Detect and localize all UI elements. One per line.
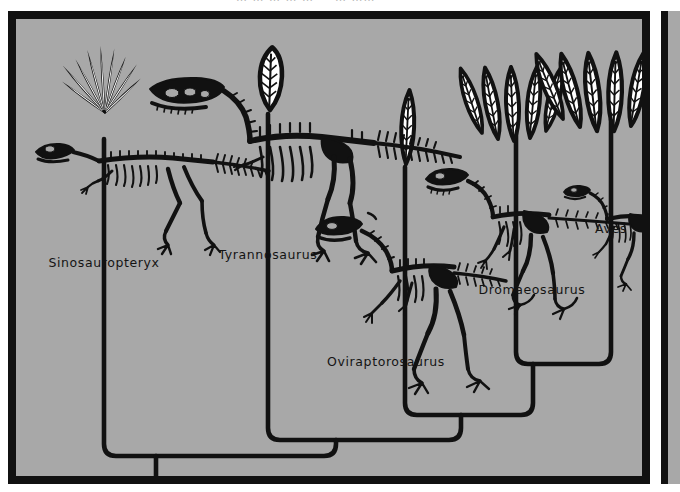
taxon-label-aves: Aves: [595, 221, 627, 236]
adjacent-panel-sliver: [661, 11, 680, 484]
taxon-label-oviraptorosaurus: Oviraptorosaurus: [327, 354, 445, 369]
cropped-caption-strip: … … … … … — … ……: [0, 0, 680, 9]
internal-node-tyrannosauroidea: [156, 440, 336, 456]
adjacent-panel-interior: [668, 11, 680, 484]
taxon-label-dromaeosaurus: Dromaeosaurus: [479, 282, 586, 297]
feather-sinosauropteryx: [62, 46, 143, 115]
feather-tyrannosaurus: [256, 46, 285, 111]
figure-root: … … … … … — … ……: [0, 0, 680, 492]
cropped-caption-text: … … … … … — … ……: [236, 0, 375, 4]
adjacent-panel-border: [661, 11, 668, 484]
feather-oviraptorosaurus: [398, 90, 417, 165]
internal-node-oviraptorosauria: [336, 415, 461, 440]
cladogram-canvas: Sinosauropteryx Tyrannosaurus Oviraptoro…: [16, 19, 642, 476]
branch-oviraptorosaurus: [405, 167, 461, 415]
figure-panel-interior: Sinosauropteryx Tyrannosaurus Oviraptoro…: [16, 19, 642, 476]
internal-node-paraves: [461, 364, 533, 415]
taxon-label-sinosauropteryx: Sinosauropteryx: [48, 255, 159, 270]
branch-sinosauropteryx: [104, 139, 156, 456]
skeleton-aves: [564, 186, 642, 294]
taxon-label-tyrannosaurus: Tyrannosaurus: [218, 247, 318, 262]
figure-panel-frame: Sinosauropteryx Tyrannosaurus Oviraptoro…: [8, 11, 650, 484]
skeleton-sinosauropteryx: [36, 144, 269, 255]
